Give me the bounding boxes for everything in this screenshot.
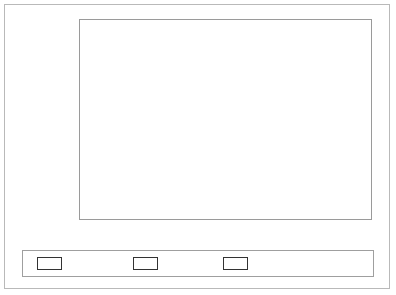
plot-area — [79, 19, 372, 220]
legend-swatch-capital-goods — [223, 257, 248, 270]
legend-swatch-fdi-profits — [133, 257, 158, 270]
stacked-area-plot — [80, 20, 373, 221]
legend-item-non-fdi — [37, 257, 71, 270]
figure-frame — [4, 4, 390, 289]
chart-area — [5, 5, 391, 243]
legend-item-capital-goods — [223, 257, 257, 270]
legend-swatch-non-fdi — [37, 257, 62, 270]
legend-item-fdi-profits — [133, 257, 167, 270]
chart-legend — [22, 250, 374, 277]
